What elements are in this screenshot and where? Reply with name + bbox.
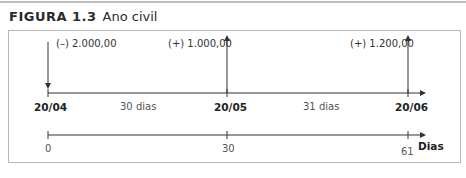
date-label: 20/04	[34, 101, 67, 113]
date-label: 20/06	[395, 101, 428, 113]
cashflow-label: (–) 2.000,00	[56, 38, 117, 49]
cashflow-label: (+) 1.200,00	[350, 38, 414, 49]
date-label: 20/05	[214, 101, 247, 113]
day-tick-label: 61	[401, 146, 414, 157]
days-axis-label: Dias	[418, 140, 444, 152]
interval-label: 30 dias	[120, 101, 156, 112]
day-tick-label: 0	[45, 143, 51, 154]
day-tick-label: 30	[222, 143, 235, 154]
interval-label: 31 dias	[303, 101, 339, 112]
cashflow-label: (+) 1.000,00	[168, 38, 232, 49]
